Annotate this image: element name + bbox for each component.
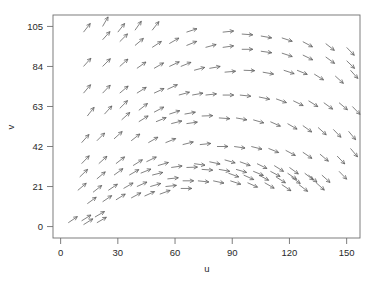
plot-frame [53,15,360,238]
vector-arrow [206,44,217,48]
plot-frame-rect [53,15,360,238]
vector-arrow [289,167,298,173]
vector-arrow [152,22,159,31]
vector-arrow [219,169,230,173]
vector-arrow [78,183,86,190]
axis-ticks [47,26,347,244]
vector-arrow [350,70,357,78]
vector-arrow [347,47,355,55]
vector-arrow [141,169,151,173]
vector-arrow [234,146,245,150]
vector-arrow [318,127,326,134]
vector-arrow [68,217,77,223]
vector-arrow [167,176,178,180]
y-axis-title: v [5,124,16,129]
vector-arrow [114,132,122,139]
vector-arrow [293,101,303,106]
vector-arrow [335,76,343,83]
vector-arrow [108,184,117,190]
vector-arrow [186,165,197,169]
x-tick-label: 60 [170,247,181,258]
y-tick-label: 0 [38,221,43,232]
vector-arrow [347,61,355,69]
vector-arrow [240,162,250,166]
vector-arrow [200,142,211,146]
vector-arrow [288,124,298,130]
vector-arrow [95,212,105,218]
vector-arrow [217,145,228,149]
vector-arrow [303,42,313,47]
vector-arrow [160,190,170,194]
vector-arrow [288,173,297,179]
vector-arrow [230,181,240,185]
vector-arrow [284,70,294,74]
vector-arrow [225,160,236,164]
vector-arrow [120,34,128,42]
vector-arrow [228,173,238,177]
x-tick-label: 150 [339,247,355,258]
y-tick-label: 63 [32,101,43,112]
vector-arrow [268,148,278,152]
vector-arrow [265,183,275,189]
x-tick-label: 0 [58,247,63,258]
vector-arrow [104,106,111,114]
vector-arrow [103,85,111,93]
vector-arrow [316,183,324,190]
vector-arrow [82,135,89,143]
vector-arrow [261,35,272,39]
vector-arrow [236,169,247,173]
vector-arrow [135,38,143,45]
vector-arrow [185,111,196,115]
vector-arrow [240,94,251,98]
vector-arrow [248,183,258,188]
figure-canvas: 0306090120150021426384105 u v [0,0,377,286]
vector-arrow [320,154,328,161]
vector-arrow [139,104,148,111]
x-tick-label: 90 [227,247,238,258]
vector-arrow [135,21,141,30]
vector-arrow [263,72,274,76]
vector-arrow [183,179,194,183]
vector-arrow [309,175,317,182]
vector-arrow [326,57,335,63]
vector-arrow [122,112,130,119]
vector-arrow [337,156,345,164]
x-tick-label: 120 [282,247,298,258]
vector-arrow [219,117,230,121]
vector-arrow [209,161,220,165]
vector-arrow [186,41,196,45]
vector-arrow [183,141,194,145]
vector-arrow [314,74,323,80]
vector-arrow [202,168,213,172]
vector-arrow [154,107,164,112]
vector-arrow [282,38,292,42]
vector-arrow [194,67,205,71]
vector-arrow [116,194,125,200]
vector-arrow [84,58,91,66]
vector-arrow [103,32,110,40]
vector-arrow [156,117,166,121]
vector-arrow [152,172,163,176]
y-tick-label: 105 [27,21,43,32]
vector-arrow [120,86,128,93]
vector-arrow [93,185,102,192]
vector-arrow [103,196,112,202]
vector-arrow [198,180,209,184]
vector-arrow [186,121,197,125]
vector-arrow [154,63,164,69]
vector-arrow [349,131,356,139]
vector-arrow [192,92,203,96]
vector-arrow [87,197,96,203]
vector-arrow [150,183,161,187]
vector-arrow [253,120,264,124]
vector-arrow [244,175,254,180]
vector-arrow [202,114,213,118]
vector-arrow [166,184,177,188]
vector-arrow [324,103,333,109]
vector-arrow [99,156,107,163]
vector-arrow [257,164,267,169]
vector-arrow [242,33,253,37]
vector-arrow [326,44,335,51]
vector-arrow [97,133,105,141]
vector-arrow [139,116,148,122]
